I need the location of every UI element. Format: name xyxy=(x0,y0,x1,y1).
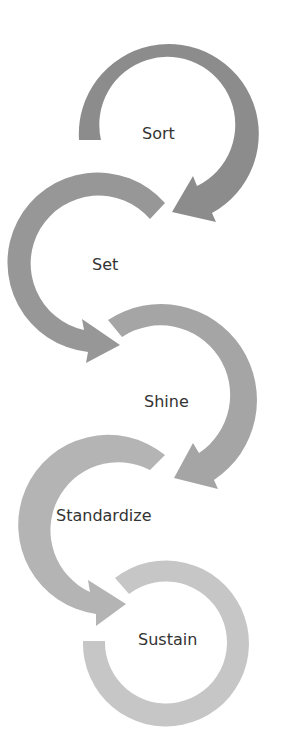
step-label-standardize: Standardize xyxy=(56,506,151,525)
step-sustain: Sustain xyxy=(83,561,249,727)
step-set: Set xyxy=(7,173,165,363)
set-arc-arrow-icon xyxy=(7,173,165,363)
five-s-process-diagram: Sort Set Shine Standardize Sustain xyxy=(0,0,284,742)
standardize-arc-arrow-icon xyxy=(18,435,165,626)
step-label-shine: Shine xyxy=(144,392,189,411)
step-standardize: Standardize xyxy=(18,435,165,626)
step-label-set: Set xyxy=(92,255,118,274)
step-label-sort: Sort xyxy=(142,124,175,143)
step-label-sustain: Sustain xyxy=(138,630,197,649)
